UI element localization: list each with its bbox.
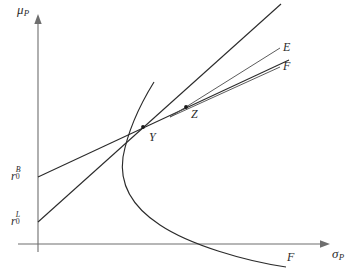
y-axis-label-subscript: P <box>24 8 30 18</box>
chart-canvas <box>0 0 359 276</box>
borrowing-rate-ray <box>38 60 289 177</box>
marker-dot-z <box>184 105 188 109</box>
curve-f-branch-line <box>170 67 280 117</box>
lending-rate-ray <box>38 4 281 222</box>
intercept-borrow-scripts: B0 <box>16 168 23 180</box>
y-axis-label: μP <box>17 3 29 18</box>
figure-root: μP σP rB0 rL0 Y Z E F F <box>0 0 359 276</box>
intercept-lend-scripts: L0 <box>16 213 23 225</box>
y-axis-arrowhead <box>34 14 41 24</box>
intercept-lend-subscript: 0 <box>16 218 20 226</box>
efficient-frontier-curve <box>122 82 286 267</box>
marker-dot-y <box>141 125 145 129</box>
x-axis <box>18 240 330 247</box>
intercept-label-lending-rate: rL0 <box>11 213 23 227</box>
point-label-z: Z <box>191 108 198 120</box>
x-axis-label: σP <box>332 247 344 262</box>
curve-label-f-lower: F <box>287 251 294 263</box>
point-label-y: Y <box>149 131 156 143</box>
intercept-borrow-subscript: 0 <box>16 173 20 181</box>
y-axis <box>34 14 41 252</box>
x-axis-arrowhead <box>320 240 330 247</box>
y-axis-label-base: μ <box>17 2 24 17</box>
curve-label-e: E <box>283 41 290 53</box>
curve-label-f-upper: F <box>283 60 290 72</box>
x-axis-label-subscript: P <box>338 252 344 262</box>
intercept-label-borrowing-rate: rB0 <box>11 168 23 182</box>
